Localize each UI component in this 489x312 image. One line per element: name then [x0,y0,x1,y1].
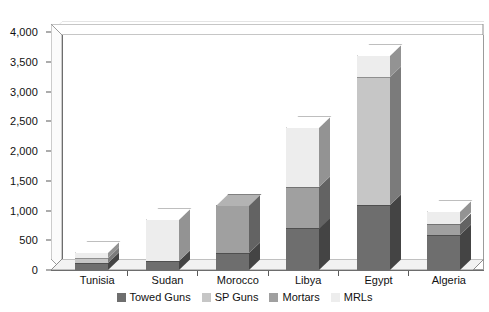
legend-swatch-icon [269,293,278,302]
bar-segment-sp-guns [357,77,390,205]
x-tick-label-algeria: Algeria [404,274,489,286]
legend-item-sp-guns[interactable]: SP Guns [202,292,259,303]
y-tick-mark [46,61,51,62]
segment-front-face [75,258,108,263]
bar-segment-towed-guns [216,253,249,270]
legend-item-mortars[interactable]: Mortars [269,292,319,303]
segment-front-face [427,211,460,223]
y-tick-mark [46,32,51,33]
legend-label: Mortars [282,292,319,303]
x-axis-line [51,270,484,271]
legend-label: Towed Guns [130,292,191,303]
legend-item-towed-guns[interactable]: Towed Guns [117,292,191,303]
y-tick-mark [46,240,51,241]
bar-segment-mrls [146,219,179,261]
bar-segment-mrls [427,211,460,223]
bar-segment-mortars [216,205,249,253]
segment-side-face [390,194,401,270]
segment-front-face [286,187,319,229]
legend-label: SP Guns [215,292,259,303]
chart-legend: Towed GunsSP GunsMortarsMRLs [0,292,489,303]
bar-column-libya[interactable] [286,127,319,270]
y-tick-mark [46,151,51,152]
segment-front-face [286,127,319,187]
bar-segment-towed-guns [286,228,319,270]
bar-column-sudan[interactable] [146,219,179,270]
bar-segment-towed-guns [357,205,390,270]
segment-front-face [75,263,108,270]
legend-swatch-icon [331,293,340,302]
legend-label: MRLs [344,292,373,303]
bar-segment-mrls [75,252,108,258]
bar-segment-towed-guns [75,263,108,270]
segment-front-face [427,235,460,270]
bar-column-morocco[interactable] [216,205,249,270]
y-tick-mark [46,270,51,271]
y-tick-mark [46,91,51,92]
segment-front-face [357,205,390,270]
bar-column-tunisia[interactable] [75,252,108,270]
segment-front-face [146,261,179,270]
bar-column-algeria[interactable] [427,211,460,270]
bar-segment-mortars [427,224,460,235]
segment-front-face [427,224,460,235]
segment-front-face [216,205,249,253]
legend-swatch-icon [117,293,126,302]
bar-segment-sp-guns [75,258,108,263]
artillery-inventory-chart: 05001,0001,5002,0002,5003,0003,5004,000 … [0,0,489,312]
segment-front-face [216,253,249,270]
bar-segment-mrls [286,127,319,187]
segment-side-face [390,66,401,205]
y-tick-mark [46,210,51,211]
legend-swatch-icon [202,293,211,302]
bar-segment-towed-guns [427,235,460,270]
segment-side-face [319,117,330,187]
bar-column-egypt[interactable] [357,55,390,270]
legend-item-mrls[interactable]: MRLs [331,292,373,303]
bar-segment-mrls [357,55,390,77]
bar-segment-mortars [286,187,319,229]
segment-front-face [75,252,108,258]
bar-segment-towed-guns [146,261,179,270]
segment-front-face [357,77,390,205]
bars-layer [0,0,489,312]
y-tick-mark [46,180,51,181]
y-tick-mark [46,121,51,122]
segment-front-face [286,228,319,270]
segment-front-face [146,219,179,261]
segment-front-face [357,55,390,77]
